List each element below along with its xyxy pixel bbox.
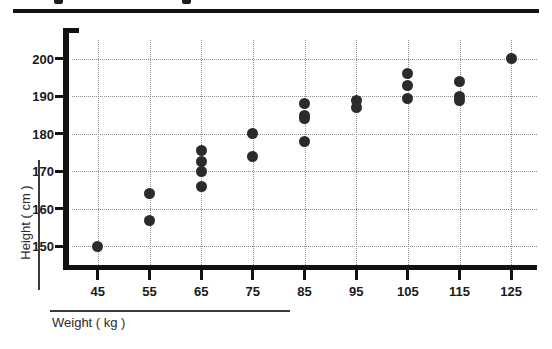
data-point bbox=[247, 151, 258, 162]
x-axis-tick-label: 55 bbox=[130, 284, 170, 299]
x-axis-tick-label: 45 bbox=[78, 284, 118, 299]
data-point bbox=[196, 166, 207, 177]
x-axis-title: Weight ( kg ) bbox=[52, 315, 125, 330]
y-axis-tick-label: 180 bbox=[22, 128, 54, 141]
y-axis-title-rule bbox=[38, 160, 40, 290]
x-axis-tick bbox=[251, 270, 254, 280]
x-axis-tick bbox=[510, 270, 513, 280]
data-point bbox=[92, 241, 103, 252]
gridline-horizontal bbox=[72, 96, 537, 97]
gridline-horizontal bbox=[72, 134, 537, 135]
x-axis-tick bbox=[303, 270, 306, 280]
x-axis-tick-label: 115 bbox=[440, 284, 480, 299]
gridline-vertical bbox=[305, 40, 306, 265]
data-point bbox=[144, 188, 155, 199]
x-axis-tick-label: 65 bbox=[181, 284, 221, 299]
gridline-horizontal bbox=[72, 246, 537, 247]
x-axis-line bbox=[63, 265, 537, 270]
data-point bbox=[299, 98, 310, 109]
x-axis-tick bbox=[148, 270, 151, 280]
data-point bbox=[196, 145, 207, 156]
cropped-title-remnant bbox=[0, 0, 552, 7]
y-axis-tick-label: 190 bbox=[22, 90, 54, 103]
x-axis-tick bbox=[355, 270, 358, 280]
x-axis-tick bbox=[96, 270, 99, 280]
x-axis-tick bbox=[458, 270, 461, 280]
gridline-horizontal bbox=[72, 209, 537, 210]
data-point bbox=[299, 136, 310, 147]
data-point bbox=[144, 215, 155, 226]
x-axis-title-rule bbox=[50, 310, 290, 312]
x-axis-tick-label: 125 bbox=[491, 284, 531, 299]
gridline-vertical bbox=[460, 40, 461, 265]
x-axis-tick-label: 95 bbox=[336, 284, 376, 299]
data-point bbox=[247, 128, 258, 139]
gridline-vertical bbox=[356, 40, 357, 265]
data-point bbox=[196, 181, 207, 192]
data-point bbox=[454, 95, 465, 106]
data-point bbox=[506, 53, 517, 64]
gridline-vertical bbox=[98, 40, 99, 265]
y-axis-tick-label: 200 bbox=[22, 53, 54, 66]
gridline-vertical bbox=[150, 40, 151, 265]
gridline-vertical bbox=[511, 40, 512, 265]
scatter-plot-area bbox=[72, 40, 537, 265]
data-point bbox=[402, 68, 413, 79]
x-axis-tick-label: 105 bbox=[388, 284, 428, 299]
data-point bbox=[402, 93, 413, 104]
data-point bbox=[299, 113, 310, 124]
data-point bbox=[351, 102, 362, 113]
data-point bbox=[402, 80, 413, 91]
x-axis-tick-label: 85 bbox=[285, 284, 325, 299]
header-divider-rule bbox=[13, 9, 539, 13]
y-axis-title: Height ( cm ) bbox=[18, 168, 33, 278]
x-axis-tick bbox=[200, 270, 203, 280]
gridline-horizontal bbox=[72, 171, 537, 172]
data-point bbox=[454, 76, 465, 87]
x-axis-tick-label: 75 bbox=[233, 284, 273, 299]
y-axis-line bbox=[63, 28, 69, 270]
x-axis-tick bbox=[406, 270, 409, 280]
gridline-horizontal bbox=[72, 59, 537, 60]
